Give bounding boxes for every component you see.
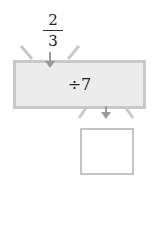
output-funnel-right <box>126 108 133 118</box>
output-funnel-left <box>79 108 86 118</box>
input-funnel-right <box>68 46 79 59</box>
down-arrow-icon <box>45 52 55 68</box>
input-funnel-left <box>21 46 32 59</box>
output-answer-box[interactable] <box>80 128 134 175</box>
down-arrow-icon <box>101 106 111 119</box>
